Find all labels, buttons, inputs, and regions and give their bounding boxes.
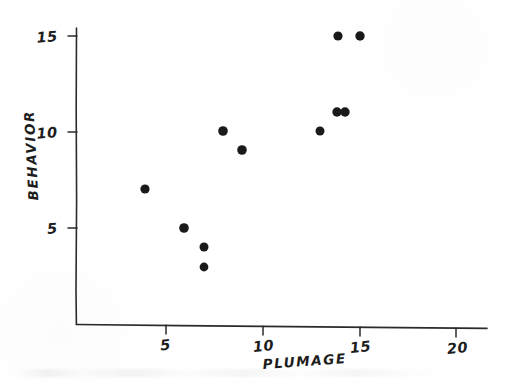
data-points-group — [140, 31, 364, 271]
data-point[interactable] — [237, 145, 247, 155]
page-bottom-smudge — [18, 369, 488, 377]
data-point[interactable] — [179, 223, 189, 233]
y-axis-tick-labels: 15 10 5 — [36, 28, 58, 237]
scatter-plot-figure: 15 10 5 5 10 15 20 PLUMAGE BEHAVIOR — [0, 0, 505, 380]
data-point[interactable] — [200, 263, 209, 272]
y-tick-label-10: 10 — [36, 124, 58, 142]
data-point[interactable] — [200, 243, 209, 252]
y-tick-label-15: 15 — [36, 28, 58, 46]
x-tick-label-15: 15 — [349, 338, 372, 356]
x-tick-label-5: 5 — [159, 337, 171, 354]
data-point[interactable] — [332, 107, 341, 116]
data-point[interactable] — [218, 126, 228, 136]
x-tick-label-20: 20 — [446, 339, 469, 357]
y-tick-label-5: 5 — [46, 220, 58, 237]
x-tick-label-10: 10 — [252, 337, 275, 355]
data-point[interactable] — [340, 107, 349, 116]
data-point[interactable] — [140, 184, 149, 193]
y-axis-title: BEHAVIOR — [21, 110, 42, 201]
data-point[interactable] — [355, 31, 364, 40]
chart-canvas: 15 10 5 5 10 15 20 PLUMAGE BEHAVIOR — [0, 0, 505, 380]
data-point[interactable] — [333, 31, 342, 40]
y-axis-line — [76, 28, 77, 325]
x-axis-line — [76, 325, 487, 329]
data-point[interactable] — [316, 127, 325, 136]
